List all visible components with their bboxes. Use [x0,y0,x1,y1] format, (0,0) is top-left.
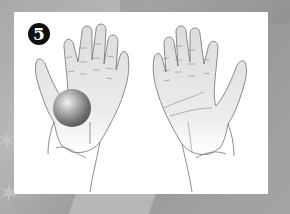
illustration-panel: 5 [14,12,268,194]
ball [53,89,91,127]
hands-illustration [14,12,268,194]
right-hand [153,26,246,192]
